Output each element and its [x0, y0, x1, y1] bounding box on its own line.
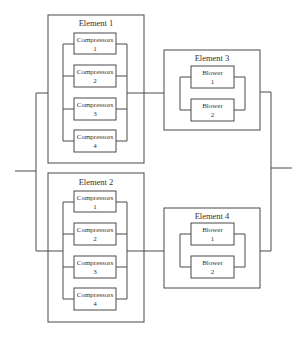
- reliability-block-diagram: Element 1 Compressors 1 Compressors 2 Co…: [0, 0, 307, 340]
- svg-text:1: 1: [211, 78, 215, 86]
- element-2-title: Element 2: [79, 177, 114, 187]
- svg-text:2: 2: [211, 268, 215, 276]
- svg-text:2: 2: [211, 111, 215, 119]
- element-4: Element 4 Blower 1 Blower 2: [164, 208, 260, 288]
- element-4-title: Element 4: [195, 211, 230, 221]
- svg-text:Blower: Blower: [202, 226, 223, 234]
- svg-text:Compressors: Compressors: [77, 36, 114, 44]
- svg-text:Blower: Blower: [202, 259, 223, 267]
- svg-text:Compressors: Compressors: [77, 101, 114, 109]
- svg-text:1: 1: [93, 45, 97, 53]
- svg-text:Compressors: Compressors: [77, 68, 114, 76]
- svg-text:2: 2: [93, 77, 97, 85]
- svg-text:1: 1: [211, 235, 215, 243]
- element-3: Element 3 Blower 1 Blower 2: [164, 50, 260, 130]
- svg-text:3: 3: [93, 268, 97, 276]
- svg-text:2: 2: [93, 235, 97, 243]
- svg-text:Compressors: Compressors: [77, 226, 114, 234]
- svg-text:Blower: Blower: [202, 69, 223, 77]
- element-1: Element 1 Compressors 1 Compressors 2 Co…: [48, 15, 144, 163]
- svg-text:3: 3: [93, 110, 97, 118]
- svg-text:Compressors: Compressors: [77, 259, 114, 267]
- svg-text:1: 1: [93, 203, 97, 211]
- svg-text:Compressors: Compressors: [77, 291, 114, 299]
- element-3-title: Element 3: [195, 53, 230, 63]
- svg-text:Compressors: Compressors: [77, 133, 114, 141]
- svg-text:4: 4: [93, 300, 97, 308]
- element-1-title: Element 1: [79, 18, 114, 28]
- element-2: Element 2 Compressors 1 Compressors 2 Co…: [48, 173, 144, 322]
- svg-text:Compressors: Compressors: [77, 194, 114, 202]
- svg-text:Blower: Blower: [202, 102, 223, 110]
- svg-text:4: 4: [93, 142, 97, 150]
